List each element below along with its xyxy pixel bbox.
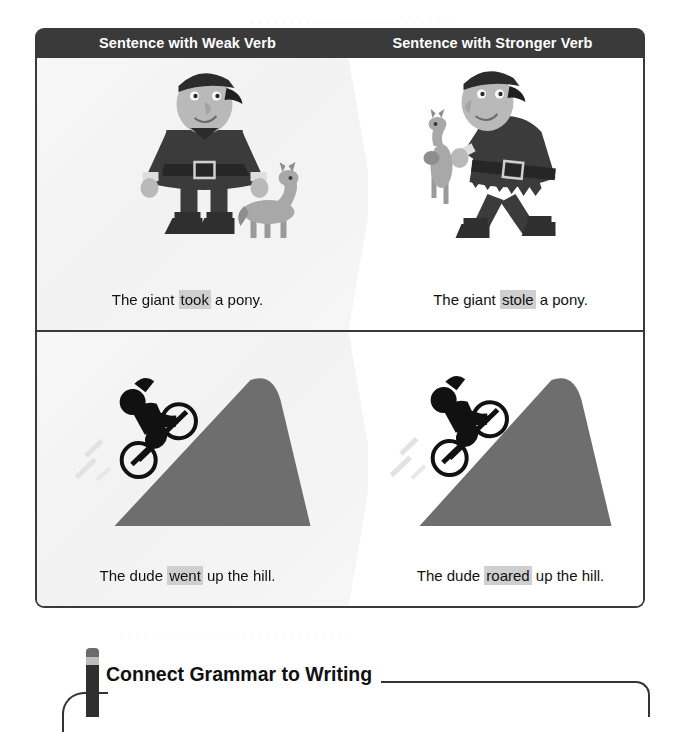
table-body: The giant took a pony. [35, 58, 645, 608]
table-row: The giant took a pony. [37, 58, 643, 332]
column-header-stronger-verb: Sentence with Stronger Verb [340, 28, 645, 58]
page-bleed-text: . . . . . . . . . . . . . . . . . . . . … [250, 14, 457, 26]
caption-text-after: a pony. [536, 291, 588, 308]
caption-text-after: a pony. [211, 291, 263, 308]
caption-text-after: up the hill. [203, 567, 276, 584]
caption-text-before: The dude [100, 567, 168, 584]
cell-stronger-verb-giant: The giant stole a pony. [368, 58, 643, 330]
banner-loop-decoration [62, 692, 108, 732]
caption-weak-verb-cyclist: The dude went up the hill. [37, 567, 372, 584]
caption-text-before: The giant [433, 291, 500, 308]
pencil-icon [86, 648, 99, 717]
column-header-weak-verb: Sentence with Weak Verb [35, 28, 340, 58]
banner-title: Connect Grammar to Writing [106, 663, 381, 686]
cell-stronger-verb-cyclist: The dude roared up the hill. [368, 332, 643, 606]
illustration-giant-standing-with-pony [37, 66, 372, 256]
caption-stronger-verb-giant: The giant stole a pony. [368, 291, 643, 308]
illustration-cyclist-roaring-up-hill [368, 340, 643, 530]
table-header-bar: Sentence with Weak Verb Sentence with St… [35, 28, 645, 58]
caption-text-before: The giant [112, 291, 179, 308]
illustration-giant-carrying-pony [368, 66, 643, 256]
connect-grammar-banner: Connect Grammar to Writing [60, 636, 660, 717]
highlighted-verb: went [167, 566, 203, 585]
comparison-table: Sentence with Weak Verb Sentence with St… [35, 28, 645, 608]
highlighted-verb: took [179, 290, 211, 309]
highlighted-verb: roared [484, 566, 531, 585]
illustration-cyclist-riding-up-hill [37, 340, 372, 530]
caption-text-before: The dude [417, 567, 485, 584]
caption-stronger-verb-cyclist: The dude roared up the hill. [368, 567, 643, 584]
highlighted-verb: stole [500, 290, 536, 309]
caption-weak-verb-giant: The giant took a pony. [37, 291, 372, 308]
table-row: The dude went up the hill. [37, 332, 643, 606]
banner-rule-decoration [320, 681, 650, 717]
cell-weak-verb-cyclist: The dude went up the hill. [37, 332, 372, 606]
cell-weak-verb-giant: The giant took a pony. [37, 58, 372, 330]
caption-text-after: up the hill. [532, 567, 605, 584]
